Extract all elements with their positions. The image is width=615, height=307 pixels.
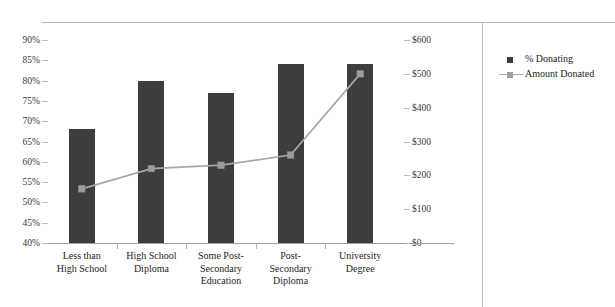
y-axis-right-tick-label: $100 — [412, 204, 431, 214]
bars-layer — [47, 40, 395, 243]
x-axis-label-line: Diploma — [117, 263, 187, 276]
bar-1 — [138, 81, 164, 243]
legend-bar-swatch-icon — [497, 53, 525, 65]
legend-marker-icon — [507, 72, 513, 78]
x-axis-label-4: UniversityDegree — [325, 250, 395, 275]
x-axis-labels: Less thanHigh SchoolHigh SchoolDiplomaSo… — [47, 250, 395, 305]
x-axis-label-0: Less thanHigh School — [47, 250, 117, 275]
y-axis-right-tick-label: $400 — [412, 103, 431, 113]
legend-item-0[interactable]: % Donating — [497, 52, 609, 66]
y-axis-left-tick-label: 90% — [23, 35, 40, 45]
x-axis-label-line: Diploma — [256, 275, 326, 288]
y-axis-left-tick-label: 75% — [23, 96, 40, 106]
y-axis-right: $600$500$400$300$200$100$0 — [412, 40, 472, 243]
y-axis-right-tick — [404, 175, 410, 176]
y-axis-right-tick — [404, 40, 410, 41]
y-axis-right-tick — [404, 108, 410, 109]
y-axis-left-tick — [42, 101, 48, 102]
y-axis-left-tick — [42, 142, 48, 143]
y-axis-left-tick — [42, 162, 48, 163]
chart-legend: % DonatingAmount Donated — [497, 52, 609, 82]
y-axis-left-tick-label: 70% — [23, 116, 40, 126]
chart-title-clipped: Chart 1: Donating and Amount Donated, by… — [0, 0, 615, 3]
x-axis-separator — [186, 243, 187, 249]
x-axis-label-line: High School — [47, 263, 117, 276]
y-axis-right-tick — [404, 209, 410, 210]
y-axis-right-tick-label: $200 — [412, 170, 431, 180]
y-axis-right-tick-label: $600 — [412, 35, 431, 45]
y-axis-left-tick — [42, 182, 48, 183]
y-axis-left: 90%85%80%75%70%65%60%55%50%45%40% — [0, 40, 40, 243]
y-axis-left-tick-label: 60% — [23, 157, 40, 167]
x-axis-label-3: Post-SecondaryDiploma — [256, 250, 326, 288]
y-axis-left-tick-label: 80% — [23, 76, 40, 86]
y-axis-right-tick-label: $500 — [412, 69, 431, 79]
y-axis-left-tick — [42, 202, 48, 203]
bar-0 — [69, 129, 95, 243]
x-axis-label-line: Secondary — [256, 263, 326, 276]
x-axis-label-line: Post- — [256, 250, 326, 263]
y-axis-left-tick — [42, 121, 48, 122]
y-axis-left-tick — [42, 60, 48, 61]
x-axis-separator — [325, 243, 326, 249]
y-axis-left-tick-label: 50% — [23, 197, 40, 207]
x-axis-label-line: Less than — [47, 250, 117, 263]
y-axis-left-tick — [42, 223, 48, 224]
y-axis-right-tick — [404, 142, 410, 143]
legend-line-swatch-icon — [497, 68, 525, 80]
chart-title: Chart 1: Donating and Amount Donated, by… — [0, 0, 615, 1]
legend-item-1[interactable]: Amount Donated — [497, 67, 609, 81]
chart-top-border — [42, 22, 615, 23]
y-axis-right-tick-label: $300 — [412, 137, 431, 147]
x-axis-label-line: High School — [117, 250, 187, 263]
y-axis-left-tick-label: 40% — [23, 238, 40, 248]
bar-4 — [347, 64, 373, 243]
x-axis-separator — [256, 243, 257, 249]
y-axis-left-tick — [42, 81, 48, 82]
x-axis-label-line: Education — [186, 275, 256, 288]
x-axis-label-line: University — [325, 250, 395, 263]
x-axis-label-line: Secondary — [186, 263, 256, 276]
legend-label: Amount Donated — [525, 68, 594, 80]
x-axis-separator — [117, 243, 118, 249]
legend-divider — [482, 22, 483, 307]
x-axis-label-line: Some Post- — [186, 250, 256, 263]
y-axis-left-tick — [42, 40, 48, 41]
y-axis-right-tick — [404, 243, 410, 244]
bar-3 — [278, 64, 304, 243]
y-axis-left-tick-label: 45% — [23, 218, 40, 228]
y-axis-right-tick — [404, 74, 410, 75]
x-axis-line — [42, 243, 454, 244]
x-axis-label-line: Degree — [325, 263, 395, 276]
bar-2 — [208, 93, 234, 243]
chart-container: Chart 1: Donating and Amount Donated, by… — [0, 0, 615, 307]
y-axis-left-tick-label: 65% — [23, 137, 40, 147]
legend-label: % Donating — [525, 53, 573, 65]
y-axis-left-tick-label: 55% — [23, 177, 40, 187]
y-axis-left-tick-label: 85% — [23, 55, 40, 65]
y-axis-left-tick — [42, 243, 48, 244]
x-axis-label-1: High SchoolDiploma — [117, 250, 187, 275]
legend-square-icon — [507, 57, 513, 63]
x-axis-label-2: Some Post-SecondaryEducation — [186, 250, 256, 288]
